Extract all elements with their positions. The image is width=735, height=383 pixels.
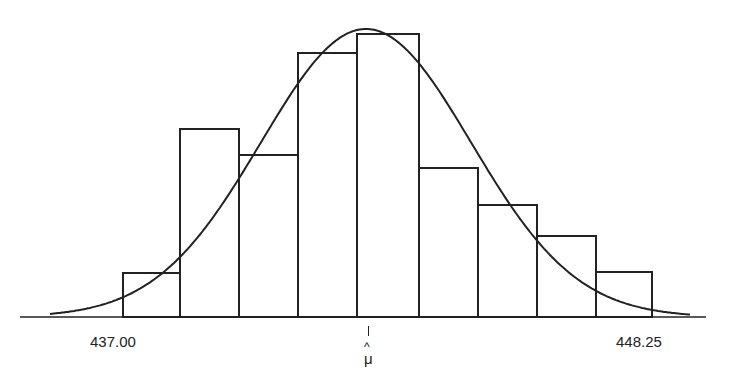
x-tick-label-max: 448.25 — [616, 333, 662, 350]
x-tick-label-min: 437.00 — [90, 333, 136, 350]
mean-tick-mark — [368, 326, 369, 336]
histogram-bar — [239, 155, 298, 317]
histogram-bar — [357, 34, 419, 317]
histogram-bar — [298, 53, 357, 317]
histogram-bar — [419, 168, 478, 317]
histogram-bar — [537, 236, 596, 317]
histogram-bar — [123, 273, 180, 317]
mean-mu-symbol: μ — [364, 352, 373, 366]
histogram-bar — [478, 205, 537, 317]
